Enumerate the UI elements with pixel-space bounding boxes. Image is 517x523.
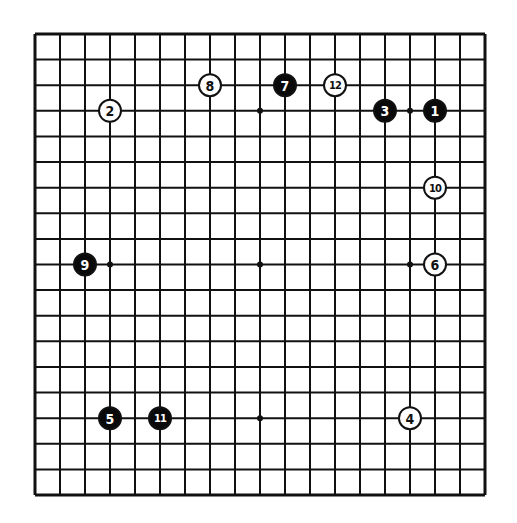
move-number-label: 6 — [431, 257, 440, 273]
move-number-label: 8 — [206, 78, 215, 94]
go-board: 123456789101112 — [0, 0, 517, 523]
stone-white-move-6: 6 — [424, 254, 446, 276]
move-number-label: 1 — [431, 103, 440, 119]
move-number-label: 11 — [154, 412, 167, 425]
go-board-diagram: 123456789101112 — [0, 0, 517, 523]
star-point — [407, 108, 413, 114]
stone-white-move-2: 2 — [99, 100, 121, 122]
stone-black-move-5: 5 — [99, 407, 121, 429]
stone-white-move-8: 8 — [199, 74, 221, 96]
stone-white-move-12: 12 — [324, 74, 346, 96]
move-number-label: 7 — [281, 78, 290, 94]
star-point — [407, 262, 413, 268]
move-number-label: 3 — [381, 103, 390, 119]
stone-black-move-1: 1 — [424, 100, 446, 122]
move-number-label: 12 — [329, 79, 342, 92]
stone-black-move-7: 7 — [274, 74, 296, 96]
stone-white-move-10: 10 — [424, 177, 446, 199]
move-number-label: 4 — [406, 411, 415, 427]
move-number-label: 5 — [106, 411, 115, 427]
star-point — [257, 108, 263, 114]
move-number-label: 2 — [106, 103, 115, 119]
star-point — [257, 262, 263, 268]
stone-white-move-4: 4 — [399, 407, 421, 429]
move-number-label: 9 — [81, 257, 90, 273]
move-number-label: 10 — [429, 182, 442, 195]
stone-black-move-9: 9 — [74, 254, 96, 276]
star-point — [257, 415, 263, 421]
stone-black-move-3: 3 — [374, 100, 396, 122]
star-point — [107, 262, 113, 268]
stone-black-move-11: 11 — [149, 407, 171, 429]
